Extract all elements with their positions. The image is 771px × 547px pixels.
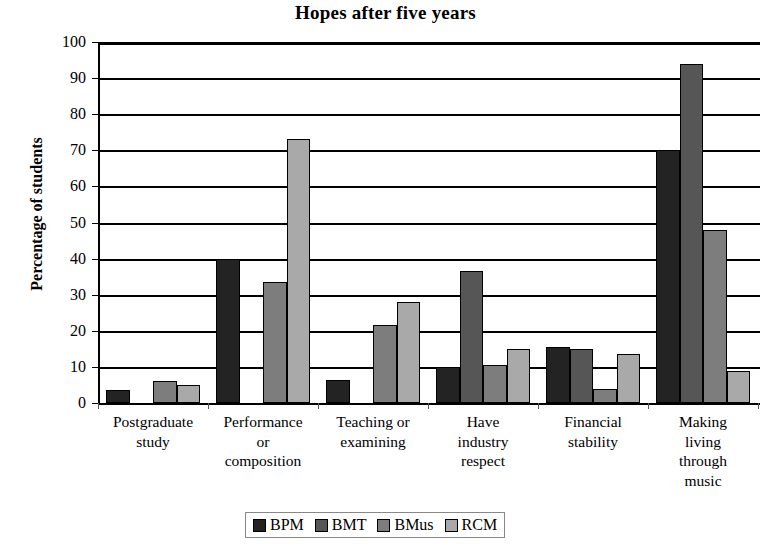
bar-rcm (727, 371, 751, 403)
y-tick-label: 20 (44, 323, 86, 339)
category-label: Performanceorcomposition (201, 412, 325, 471)
y-tick-label: 0 (44, 395, 86, 411)
category-label-line: through (641, 451, 765, 471)
y-tick-label: 30 (44, 287, 86, 303)
y-tick-label: 70 (44, 142, 86, 158)
bar-chart: Hopes after five years Percentage of stu… (0, 0, 771, 547)
bar-bmt (570, 349, 594, 403)
bar-rcm (617, 354, 641, 403)
legend-swatch-icon (445, 519, 458, 532)
category-label-line: Financial (531, 412, 655, 432)
category-label: Haveindustryrespect (421, 412, 545, 471)
bar-bpm (326, 380, 350, 403)
bar-rcm (507, 349, 531, 403)
legend-label: BPM (270, 517, 304, 533)
legend-item-bmt[interactable]: BMT (315, 517, 367, 533)
bar-bpm (106, 390, 130, 403)
category-label-line: industry (421, 432, 545, 452)
bar-bmus (703, 230, 727, 403)
x-tick-mark (538, 403, 539, 409)
category-label-line: stability (531, 432, 655, 452)
legend-swatch-icon (253, 519, 266, 532)
y-tick-label: 60 (44, 178, 86, 194)
legend-label: BMus (394, 517, 433, 533)
bar-group (428, 42, 538, 403)
y-tick-label: 80 (44, 106, 86, 122)
bar-bmus (373, 325, 397, 403)
x-tick-mark (758, 403, 759, 409)
category-label-line: examining (311, 432, 435, 452)
bar-group (538, 42, 648, 403)
bar-bmt (460, 271, 484, 403)
category-label-line: study (91, 432, 215, 452)
category-label-line: Performance (201, 412, 325, 432)
category-label-line: Postgraduate (91, 412, 215, 432)
y-tick-label: 90 (44, 70, 86, 86)
bar-bmus (593, 389, 617, 403)
bar-bmus (153, 381, 177, 403)
chart-legend: BPMBMTBMusRCM (245, 512, 505, 538)
category-label: Financialstability (531, 412, 655, 451)
bar-bmus (483, 365, 507, 403)
category-label-line: Making (641, 412, 765, 432)
category-label-line: music (641, 471, 765, 491)
x-tick-mark (208, 403, 209, 409)
x-tick-mark (318, 403, 319, 409)
category-label: Makinglivingthroughmusic (641, 412, 765, 490)
bar-bpm (546, 347, 570, 403)
bar-bmus (263, 282, 287, 403)
legend-item-bmus[interactable]: BMus (377, 517, 433, 533)
category-label-line: respect (421, 451, 545, 471)
legend-item-bpm[interactable]: BPM (253, 517, 304, 533)
bars-layer (98, 42, 758, 403)
bar-group (208, 42, 318, 403)
x-axis-category-labels: PostgraduatestudyPerformanceorcompositio… (98, 412, 758, 497)
bar-group (648, 42, 758, 403)
x-tick-mark (98, 403, 99, 409)
chart-title: Hopes after five years (0, 2, 771, 24)
category-label-line: living (641, 432, 765, 452)
legend-item-rcm[interactable]: RCM (445, 517, 498, 533)
category-label: Postgraduatestudy (91, 412, 215, 451)
bar-group (98, 42, 208, 403)
y-tick-label: 10 (44, 359, 86, 375)
y-tick-label: 50 (44, 215, 86, 231)
x-tick-mark (428, 403, 429, 409)
legend-label: RCM (462, 517, 498, 533)
bar-bmt (680, 64, 704, 403)
bar-rcm (397, 302, 421, 403)
bar-bpm (216, 259, 240, 403)
category-label-line: or (201, 432, 325, 452)
bar-bpm (656, 150, 680, 403)
legend-swatch-icon (377, 519, 390, 532)
y-tick-label: 40 (44, 251, 86, 267)
bar-rcm (177, 385, 201, 403)
category-label-line: Teaching or (311, 412, 435, 432)
x-tick-mark (648, 403, 649, 409)
y-tick-label: 100 (44, 34, 86, 50)
legend-swatch-icon (315, 519, 328, 532)
legend-label: BMT (332, 517, 367, 533)
category-label-line: Have (421, 412, 545, 432)
bar-bpm (436, 367, 460, 403)
bar-group (318, 42, 428, 403)
category-label: Teaching orexamining (311, 412, 435, 451)
bar-rcm (287, 139, 311, 403)
category-label-line: composition (201, 451, 325, 471)
